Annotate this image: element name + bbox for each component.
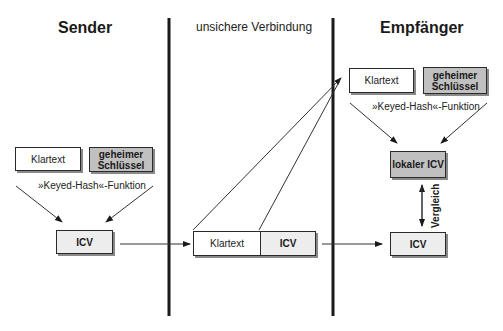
receiver-plaintext-box: Klartext <box>349 68 414 93</box>
channel-icv-cell: ICV <box>261 232 315 255</box>
receiver-heading: Empfänger <box>380 19 464 37</box>
channel-plaintext-cell: Klartext <box>194 232 261 255</box>
receiver-function-label: »Keyed-Hash«-Funktion <box>372 101 480 112</box>
receiver-key-box: geheimer Schlüssel <box>423 67 487 94</box>
sender-plaintext-box: Klartext <box>15 147 81 171</box>
sender-icv-label: ICV <box>76 237 93 248</box>
sender-heading: Sender <box>58 19 112 37</box>
channel-plaintext-label: Klartext <box>210 238 244 249</box>
channel-heading: unsichere Verbindung <box>196 20 312 34</box>
receiver-compare-label: Vergleich <box>430 184 441 228</box>
receiver-local-icv-label: lokaler ICV <box>392 159 444 170</box>
sender-plaintext-label: Klartext <box>31 154 65 165</box>
channel-icv-label: ICV <box>280 238 297 249</box>
receiver-icv-box: ICV <box>390 232 446 256</box>
receiver-plaintext-label: Klartext <box>365 75 399 86</box>
sender-key-label: geheimer Schlüssel <box>94 149 148 171</box>
receiver-icv-label: ICV <box>410 239 427 250</box>
channel-message-box: Klartext ICV <box>193 231 316 256</box>
receiver-local-icv-box: lokaler ICV <box>390 151 446 178</box>
sender-function-label: »Keyed-Hash«-Funktion <box>38 180 146 191</box>
receiver-key-label: geheimer Schlüssel <box>428 70 482 92</box>
sender-key-box: geheimer Schlüssel <box>89 147 153 172</box>
sender-icv-box: ICV <box>56 230 113 254</box>
